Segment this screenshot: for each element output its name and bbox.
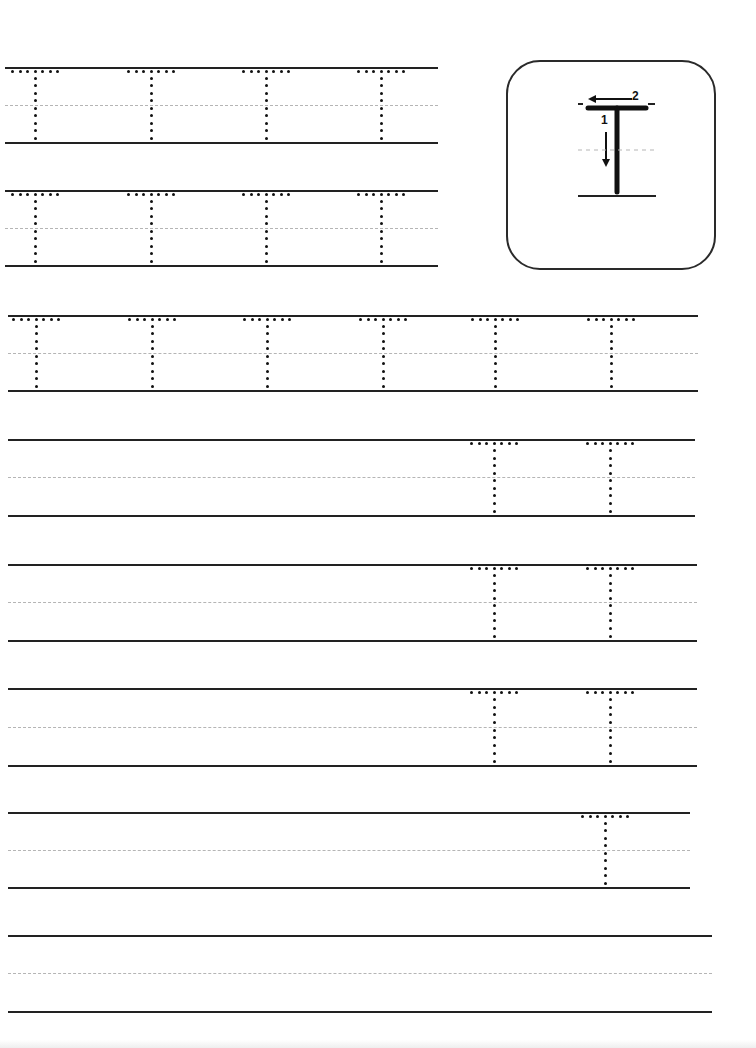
row-5-mid-line — [8, 602, 697, 603]
row-8-mid-line — [8, 973, 712, 974]
row-7-top-line — [8, 812, 690, 814]
stroke-order-model-box: 2 1 — [506, 60, 716, 270]
row-4-top-line — [8, 439, 695, 441]
row-1-base-line — [5, 142, 438, 144]
row-2-top-line — [5, 190, 438, 192]
row-5-base-line — [8, 640, 697, 642]
row-5-top-line — [8, 564, 697, 566]
row-2-mid-line — [5, 228, 438, 229]
row-3-mid-line — [8, 353, 698, 354]
row-6-base-line — [8, 765, 697, 767]
stroke-1-number: 1 — [601, 113, 608, 127]
letter-t-stroke-diagram — [508, 62, 714, 268]
row-4-mid-line — [8, 477, 695, 478]
row-1-mid-line — [5, 105, 438, 106]
row-2-base-line — [5, 265, 438, 267]
row-1-top-line — [5, 67, 438, 69]
stroke-2-number: 2 — [632, 89, 639, 103]
row-3-base-line — [8, 390, 698, 392]
row-6-top-line — [8, 688, 697, 690]
row-8-top-line — [8, 935, 712, 937]
row-7-mid-line — [8, 850, 690, 851]
row-8-base-line — [8, 1011, 712, 1013]
row-3-top-line — [8, 315, 698, 317]
row-6-mid-line — [8, 727, 697, 728]
row-4-base-line — [8, 515, 695, 517]
row-7-base-line — [8, 887, 690, 889]
page-bottom-edge — [0, 1040, 756, 1048]
